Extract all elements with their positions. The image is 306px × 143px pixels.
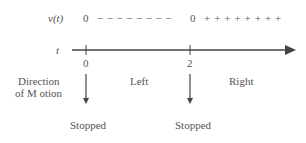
down-arrow-icon (187, 98, 193, 104)
axis-arrowhead-icon (285, 45, 296, 55)
motion-heading-line1: Direction (18, 75, 60, 87)
positive-signs: + + + + + + + + (204, 12, 282, 24)
time-axis-label: t (56, 44, 59, 56)
stopped-label-at-0: Stopped (70, 119, 106, 131)
tick-label-0: 0 (83, 57, 89, 69)
velocity-label: v(t) (48, 12, 63, 24)
tick-label-2: 2 (187, 57, 193, 69)
velocity-zero-at-0: 0 (83, 12, 89, 24)
negative-signs: − − − − − − − − (97, 12, 172, 24)
velocity-zero-at-2: 0 (190, 12, 196, 24)
down-arrow-icon (83, 98, 89, 104)
stopped-label-at-2: Stopped (175, 119, 211, 131)
interval-right-label: Right (229, 75, 253, 87)
interval-left-label: Left (130, 75, 148, 87)
motion-heading-line2: of M otion (15, 87, 62, 99)
